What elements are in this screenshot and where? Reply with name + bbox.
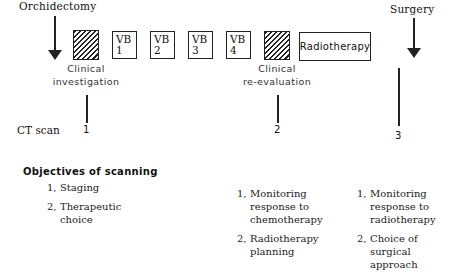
ct-scan-label: CT scan bbox=[17, 124, 60, 136]
ct-scan-3-marker bbox=[398, 68, 400, 126]
objective-text: Monitoring bbox=[250, 187, 323, 200]
vb-box-1-number: 1 bbox=[116, 45, 136, 56]
radiotherapy-label: Radiotherapy bbox=[300, 41, 371, 52]
vb-box-1: VB 1 bbox=[112, 31, 137, 59]
clinical-investigation-label: Clinical investigation bbox=[46, 62, 126, 88]
vb-box-2-number: 2 bbox=[154, 45, 174, 56]
objective-text: Choice of bbox=[370, 232, 436, 245]
objective-text: Therapeutic bbox=[60, 200, 121, 213]
objective-text: approach bbox=[370, 258, 436, 271]
orchidectomy-label: Orchidectomy bbox=[19, 0, 96, 12]
objective-text: Radiotherapy bbox=[250, 232, 323, 245]
objective-number: 2, bbox=[237, 232, 247, 245]
objective-text: chemotherapy bbox=[250, 213, 323, 226]
objective-item: 1, Monitoring response to chemotherapy bbox=[237, 187, 323, 226]
vb-box-4: VB 4 bbox=[226, 31, 251, 59]
objective-item: 2, Therapeutic choice bbox=[47, 200, 121, 226]
objective-item: 1, Staging bbox=[47, 181, 121, 194]
objective-text: response to bbox=[370, 200, 436, 213]
objective-number: 1, bbox=[47, 181, 57, 194]
hatched-box-clinical-investigation bbox=[73, 30, 99, 60]
ct-scan-point-1: 1 bbox=[83, 124, 89, 135]
ct-scan-point-3: 3 bbox=[395, 130, 401, 141]
objective-item: 1, Monitoring response to radiotherapy bbox=[357, 187, 436, 226]
objective-text: planning bbox=[250, 245, 323, 258]
objective-item: 2, Radiotherapy planning bbox=[237, 232, 323, 258]
objective-number: 1, bbox=[357, 187, 367, 200]
vb-box-3-number: 3 bbox=[192, 45, 212, 56]
objective-text: surgical bbox=[370, 245, 436, 258]
clinical-reevaluation-label: Clinical re-evaluation bbox=[237, 62, 317, 88]
surgery-label: Surgery bbox=[390, 3, 434, 15]
clinical-reevaluation-line2: re-evaluation bbox=[237, 75, 317, 88]
clinical-investigation-line2: investigation bbox=[46, 75, 126, 88]
ct-scan-2-marker bbox=[277, 95, 279, 123]
objective-text: choice bbox=[60, 213, 121, 226]
clinical-reevaluation-line1: Clinical bbox=[237, 62, 317, 75]
clinical-investigation-line1: Clinical bbox=[46, 62, 126, 75]
objective-text: Monitoring bbox=[370, 187, 436, 200]
objective-text: Staging bbox=[60, 181, 121, 194]
hatched-box-clinical-reevaluation bbox=[264, 31, 290, 60]
vb-box-2: VB 2 bbox=[150, 31, 175, 59]
objective-item: 2, Choice of surgical approach bbox=[357, 232, 436, 271]
objectives-column-3: 1, Monitoring response to radiotherapy 2… bbox=[357, 187, 436, 271]
objectives-heading: Objectives of scanning bbox=[23, 166, 158, 177]
objective-number: 1, bbox=[237, 187, 247, 200]
objectives-column-2: 1, Monitoring response to chemotherapy 2… bbox=[237, 187, 323, 258]
radiotherapy-box: Radiotherapy bbox=[299, 32, 371, 61]
objective-number: 2, bbox=[357, 232, 367, 245]
objectives-column-1: 1, Staging 2, Therapeutic choice bbox=[47, 181, 121, 226]
vb-box-4-number: 4 bbox=[230, 45, 250, 56]
ct-scan-point-2: 2 bbox=[274, 124, 280, 135]
objective-number: 2, bbox=[47, 200, 57, 213]
objective-text: response to bbox=[250, 200, 323, 213]
ct-scan-1-marker bbox=[86, 95, 88, 123]
objective-text: radiotherapy bbox=[370, 213, 436, 226]
vb-box-3: VB 3 bbox=[188, 31, 213, 59]
